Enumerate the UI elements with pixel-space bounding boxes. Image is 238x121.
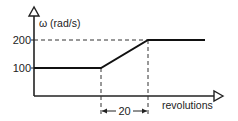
dimension-arrow-left-icon [102, 109, 107, 114]
x-axis-label: revolutions [162, 99, 213, 111]
y-tick-100: 100 [13, 62, 31, 74]
y-tick-200: 200 [13, 34, 31, 46]
dimension-arrow-right-icon [142, 109, 147, 114]
x-axis-arrow-icon [214, 91, 223, 101]
omega-vs-revolutions-diagram: 200 100 ω (rad/s) revolutions 20 [0, 0, 238, 121]
omega-profile-line [34, 40, 205, 68]
y-axis-arrow-icon [29, 7, 39, 16]
y-axis-label: ω (rad/s) [39, 17, 80, 29]
dimension-label: 20 [118, 105, 130, 117]
